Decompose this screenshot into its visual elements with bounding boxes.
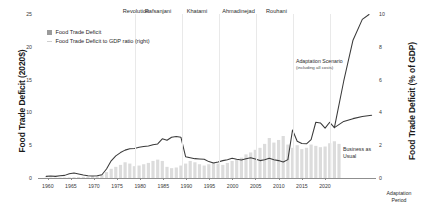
x-tickmark: [117, 178, 118, 180]
x-tick-2020: 2020: [310, 183, 340, 189]
y-tick-left-5: 5: [12, 142, 32, 148]
legend-line-swatch-icon: [47, 39, 52, 44]
y-tick-right-10: 10: [379, 11, 399, 17]
era-divider-khatami: [219, 14, 220, 178]
x-tickmark: [232, 178, 233, 180]
annotation-business-as-usual: Business as Usual: [343, 146, 371, 159]
y-tick-right-4: 4: [379, 109, 399, 115]
legend-item-food-trade-deficit[interactable]: Food Trade Deficit: [47, 28, 150, 36]
annotation-bau-line2: Usual: [343, 153, 371, 160]
line-series-business-as-usual: [334, 115, 371, 127]
y-tick-right-6: 6: [379, 77, 399, 83]
y-tick-left-20: 20: [12, 44, 32, 50]
era-label-khatami: Khatami: [179, 8, 215, 14]
legend-bar-swatch-icon: [47, 30, 52, 35]
x-tickmark: [325, 178, 326, 180]
annotation-adaptation-scenario: Adaptation Scenario (including all costs…: [296, 58, 343, 70]
chart-legend: Food Trade Deficit Food Trade Deficit to…: [47, 28, 150, 46]
era-divider-end: [330, 14, 331, 178]
x-tickmark: [279, 178, 280, 180]
x-tickmark: [209, 178, 210, 180]
x-tickmark: [186, 178, 187, 180]
adaptation-period-line2: Period: [371, 197, 427, 204]
legend-label-deficit-to-gdp-ratio: Food Trade Deficit to GDP ratio (right): [56, 38, 150, 44]
line-series-adaptation-scenario: [334, 15, 369, 128]
y-tick-right-8: 8: [379, 44, 399, 50]
era-label-rafsanjani: Rafsanjani: [137, 8, 179, 14]
x-tickmark: [302, 178, 303, 180]
y-axis-right-title: Food Trade Deficit (% of GDP): [407, 36, 417, 166]
era-divider-ahmadinejad: [256, 14, 257, 178]
era-divider-rafsanjani: [182, 14, 183, 178]
adaptation-period-label: Adaptation Period: [371, 190, 427, 203]
y-tick-left-25: 25: [12, 11, 32, 17]
x-tickmark: [163, 178, 164, 180]
y-tick-right-0: 0: [379, 175, 399, 181]
x-tickmark: [71, 178, 72, 180]
annotation-bau-line1: Business as: [343, 146, 371, 153]
y-tick-left-0: 0: [12, 175, 32, 181]
legend-item-deficit-to-gdp-ratio[interactable]: Food Trade Deficit to GDP ratio (right): [47, 37, 150, 45]
x-tickmark: [94, 178, 95, 180]
y-tick-right-2: 2: [379, 142, 399, 148]
era-divider-rouhani: [293, 14, 294, 178]
y-tick-left-15: 15: [12, 77, 32, 83]
y-tick-left-10: 10: [12, 109, 32, 115]
bar-series-food-trade-deficit: [45, 136, 341, 178]
annotation-adaptation-subtitle: (including all costs): [296, 65, 343, 71]
x-tickmark: [48, 178, 49, 180]
legend-label-food-trade-deficit: Food Trade Deficit: [56, 29, 102, 35]
x-tickmark: [140, 178, 141, 180]
x-tickmark: [255, 178, 256, 180]
annotation-adaptation-title: Adaptation Scenario: [296, 58, 343, 65]
era-label-rouhani: Rouhani: [260, 8, 293, 14]
x-axis-line: [38, 178, 376, 179]
era-label-ahmadinejad: Ahmadinejad: [216, 8, 261, 14]
chart-figure: Food Trade Deficit (2020$) Food Trade De…: [0, 0, 427, 212]
